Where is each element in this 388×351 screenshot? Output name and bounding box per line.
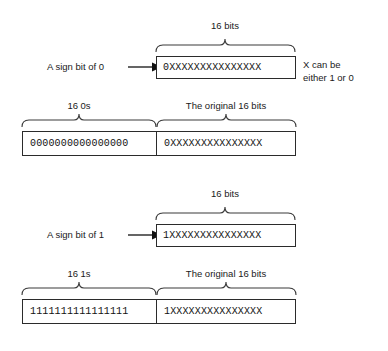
result-box-divider-negative bbox=[156, 299, 157, 324]
brace-right-original-positive bbox=[157, 114, 296, 127]
brace-top-negative bbox=[156, 207, 295, 220]
note-x-meaning-line2: either 1 or 0 bbox=[303, 72, 354, 84]
brace-top-positive bbox=[156, 39, 295, 52]
brace-left-ones bbox=[22, 282, 156, 295]
extension-bits-text-positive: 0000000000000000 bbox=[30, 138, 128, 149]
label-sign-bit-negative: A sign bit of 1 bbox=[47, 229, 104, 241]
result-box-divider-positive bbox=[156, 131, 157, 156]
label-16-zeros: 16 0s bbox=[67, 100, 90, 112]
result-bits-text-negative: 1XXXXXXXXXXXXXXX bbox=[164, 306, 262, 317]
label-original-16-bits-negative: The original 16 bits bbox=[186, 268, 266, 280]
source-bits-text-positive: 0XXXXXXXXXXXXXXX bbox=[163, 62, 261, 73]
brace-left-zeros bbox=[22, 114, 156, 127]
result-bits-text-positive: 0XXXXXXXXXXXXXXX bbox=[164, 138, 262, 149]
label-16-bits-negative: 16 bits bbox=[211, 188, 239, 200]
label-sign-bit-positive: A sign bit of 0 bbox=[47, 61, 104, 73]
note-x-meaning-line1: X can be bbox=[303, 59, 341, 71]
label-original-16-bits-positive: The original 16 bits bbox=[186, 100, 266, 112]
brace-right-original-negative bbox=[157, 282, 296, 295]
source-bits-text-negative: 1XXXXXXXXXXXXXXX bbox=[163, 230, 261, 241]
label-16-bits-positive: 16 bits bbox=[211, 20, 239, 32]
sign-label-text-positive: A sign bit of 0 bbox=[47, 61, 104, 72]
label-16-ones: 16 1s bbox=[67, 268, 90, 280]
sign-extension-figure: 16 bits A sign bit of 0 0XXXXXXXXXXXXXXX… bbox=[0, 0, 388, 351]
sign-label-text-negative: A sign bit of 1 bbox=[47, 229, 104, 240]
extension-bits-text-negative: 1111111111111111 bbox=[30, 306, 128, 317]
